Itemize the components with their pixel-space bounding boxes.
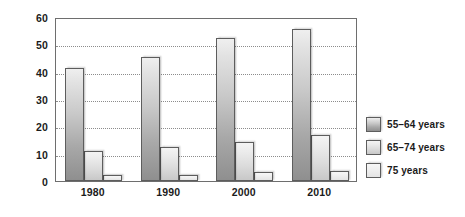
bar[interactable] bbox=[311, 135, 330, 181]
bar[interactable] bbox=[235, 142, 254, 181]
bar-group bbox=[65, 19, 122, 181]
bar[interactable] bbox=[292, 29, 311, 181]
bars-layer bbox=[56, 19, 356, 181]
bar-group bbox=[292, 19, 349, 181]
legend-label: 75 years bbox=[387, 165, 428, 176]
bar[interactable] bbox=[65, 68, 84, 181]
legend-item[interactable]: 55–64 years bbox=[366, 113, 465, 136]
x-tick-label: 2010 bbox=[282, 186, 358, 198]
x-axis: 1980199020002010 bbox=[55, 186, 357, 206]
bar-group bbox=[216, 19, 273, 181]
legend-swatch-icon bbox=[366, 163, 381, 178]
y-tick-label: 10 bbox=[4, 150, 48, 160]
bar[interactable] bbox=[179, 175, 198, 181]
y-tick-label: 20 bbox=[4, 122, 48, 132]
bar[interactable] bbox=[103, 175, 122, 181]
x-tick-label: 1990 bbox=[131, 186, 207, 198]
x-tick-label: 2000 bbox=[206, 186, 282, 198]
legend-item[interactable]: 75 years bbox=[366, 159, 465, 182]
bar[interactable] bbox=[254, 172, 273, 181]
y-tick-label: 30 bbox=[4, 95, 48, 105]
y-tick-label: 60 bbox=[4, 13, 48, 23]
legend-label: 65–74 years bbox=[387, 142, 445, 153]
x-tick-label: 1980 bbox=[55, 186, 131, 198]
bar[interactable] bbox=[160, 147, 179, 181]
legend-item[interactable]: 65–74 years bbox=[366, 136, 465, 159]
bar[interactable] bbox=[84, 151, 103, 181]
legend-swatch-icon bbox=[366, 117, 381, 132]
bar-chart: 0102030405060 1980199020002010 55–64 yea… bbox=[0, 0, 465, 217]
legend-swatch-icon bbox=[366, 140, 381, 155]
bar[interactable] bbox=[330, 171, 349, 181]
bar-group bbox=[141, 19, 198, 181]
y-tick-label: 50 bbox=[4, 40, 48, 50]
y-tick-label: 0 bbox=[4, 177, 48, 187]
legend: 55–64 years65–74 years75 years bbox=[366, 113, 465, 182]
plot-area bbox=[55, 18, 357, 182]
bar[interactable] bbox=[141, 57, 160, 181]
y-tick-label: 40 bbox=[4, 68, 48, 78]
bar[interactable] bbox=[216, 38, 235, 181]
legend-label: 55–64 years bbox=[387, 119, 445, 130]
y-axis: 0102030405060 bbox=[0, 0, 48, 217]
